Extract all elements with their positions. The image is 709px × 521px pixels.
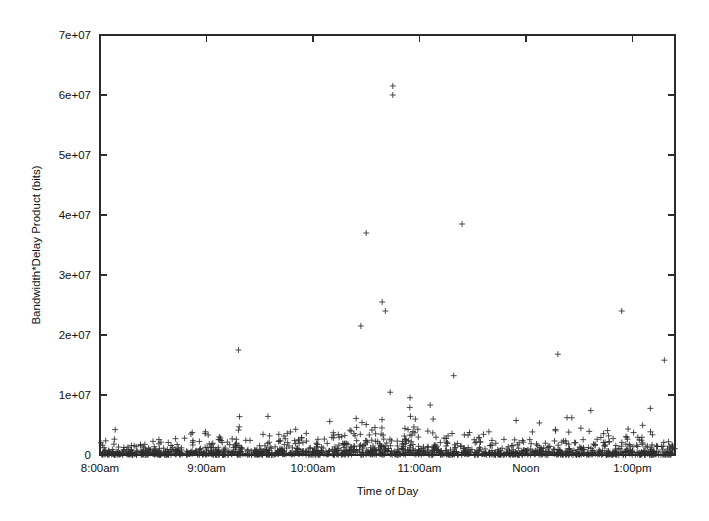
data-point: [634, 442, 640, 448]
y-tick-label: 6e+07: [59, 89, 91, 101]
data-point: [433, 434, 439, 440]
data-point: [173, 436, 179, 442]
data-point: [427, 402, 433, 408]
data-point: [520, 439, 526, 445]
data-point: [631, 430, 637, 436]
y-tick-label: 3e+07: [59, 269, 91, 281]
data-point: [321, 436, 327, 442]
data-point: [267, 433, 273, 439]
data-point: [382, 308, 388, 314]
data-point: [390, 92, 396, 98]
data-point: [459, 221, 465, 227]
data-point: [445, 440, 451, 446]
data-point: [303, 438, 309, 444]
x-tick-label: 1:00pm: [613, 462, 651, 474]
data-point: [357, 431, 363, 437]
data-point: [625, 426, 631, 432]
data-point: [284, 430, 290, 436]
data-point: [647, 405, 653, 411]
data-point: [222, 445, 228, 451]
data-point: [451, 373, 457, 379]
x-tick-label: Noon: [512, 462, 540, 474]
data-point: [306, 445, 312, 451]
y-axis-tick-labels: 01e+072e+073e+074e+075e+076e+077e+07: [59, 29, 91, 461]
data-point: [243, 437, 249, 443]
data-point: [564, 415, 570, 421]
y-axis-title: Bandwidth*Delay Product (bits): [30, 165, 42, 324]
data-point: [236, 424, 242, 430]
data-point: [407, 413, 413, 419]
plot-canvas: 01e+072e+073e+074e+075e+076e+077e+07 8:0…: [0, 0, 709, 521]
data-point: [381, 436, 387, 442]
data-point: [188, 431, 194, 437]
y-tick-label: 0: [85, 449, 91, 461]
data-point: [481, 431, 487, 437]
x-tick-label: 11:00am: [397, 462, 441, 474]
data-point: [552, 438, 558, 444]
data-point: [293, 426, 299, 432]
data-point: [379, 425, 385, 431]
data-point: [623, 434, 629, 440]
data-point: [415, 434, 421, 440]
data-point: [390, 83, 396, 89]
data-point: [407, 404, 413, 410]
data-point: [236, 427, 242, 433]
data-point: [635, 434, 641, 440]
x-tick-label: 9:00am: [187, 462, 225, 474]
data-point: [407, 395, 413, 401]
data-point: [266, 439, 272, 445]
data-point: [150, 438, 156, 444]
data-point: [528, 441, 534, 447]
data-point: [472, 440, 478, 446]
x-tick-label: 8:00am: [81, 462, 119, 474]
x-tick-label: 10:00am: [291, 462, 336, 474]
data-point: [347, 427, 353, 433]
data-point: [354, 438, 360, 444]
data-point: [196, 438, 202, 444]
y-tick-label: 4e+07: [59, 209, 91, 221]
data-point: [402, 425, 408, 431]
data-point: [489, 437, 495, 443]
data-point: [237, 414, 243, 420]
data-point: [387, 436, 393, 442]
data-point: [111, 436, 117, 442]
data-point: [529, 429, 535, 435]
data-point: [640, 440, 646, 446]
data-point: [408, 439, 414, 445]
data-point: [257, 443, 263, 449]
data-point: [303, 430, 309, 436]
data-point: [410, 441, 416, 447]
x-axis-title: Time of Day: [357, 485, 419, 497]
data-point: [260, 431, 266, 437]
data-point: [348, 428, 354, 434]
data-point: [606, 439, 612, 445]
data-point: [276, 431, 282, 437]
data-point: [112, 427, 118, 433]
data-point: [354, 424, 360, 430]
data-point: [353, 415, 359, 421]
data-point: [412, 416, 418, 422]
data-point: [619, 308, 625, 314]
data-point: [605, 428, 611, 434]
data-point: [513, 418, 519, 424]
data-point: [281, 433, 287, 439]
data-point: [276, 438, 282, 444]
data-point: [580, 437, 586, 443]
data-point: [536, 420, 542, 426]
y-tick-label: 5e+07: [59, 149, 91, 161]
data-point: [358, 323, 364, 329]
data-point: [394, 438, 400, 444]
data-point: [501, 436, 507, 442]
data-point: [644, 443, 650, 449]
data-point: [379, 299, 385, 305]
data-point: [555, 442, 561, 448]
data-point: [327, 418, 333, 424]
data-point: [555, 351, 561, 357]
y-tick-label: 2e+07: [59, 329, 91, 341]
x-axis-tick-labels: 8:00am9:00am10:00am11:00amNoon1:00pm: [81, 462, 652, 474]
data-point: [486, 429, 492, 435]
data-point: [437, 440, 443, 446]
data-point: [111, 441, 117, 447]
data-point: [601, 443, 607, 449]
data-point: [572, 440, 578, 446]
